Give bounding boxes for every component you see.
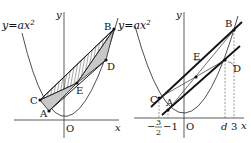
point-B: [112, 27, 115, 30]
label-E: E: [76, 85, 83, 96]
left-figure: y=ax2 y x O B D E C A: [1, 9, 121, 138]
x-axis-label: x: [115, 122, 121, 133]
diagram-canvas: y=ax2 y x O B D E C A y=ax2 y x O: [0, 0, 251, 143]
right-figure: y=ax2 y x O B D E C A − 3 2 −1 d 3: [117, 9, 247, 138]
point-B: [232, 28, 235, 31]
point-D: [223, 58, 226, 61]
origin-label: O: [186, 121, 194, 132]
tick-frac-den: 2: [156, 128, 161, 137]
point-C: [157, 96, 160, 99]
label-B: B: [104, 21, 111, 32]
curve-label: y=ax2: [117, 19, 151, 32]
y-axis-label: y: [55, 9, 62, 20]
tick-neg-one: −1: [163, 121, 178, 132]
label-A: A: [165, 97, 174, 108]
tick-frac-num: 3: [156, 118, 161, 127]
segment-AB: [168, 30, 234, 110]
label-D: D: [107, 61, 115, 72]
label-C: C: [30, 95, 38, 106]
point-C: [38, 98, 41, 101]
label-D: D: [233, 63, 241, 74]
x-axis-label: x: [241, 120, 247, 131]
label-A: A: [39, 108, 48, 119]
origin-label: O: [66, 123, 74, 134]
label-E: E: [193, 51, 200, 62]
line-AD: [162, 46, 240, 115]
line-CB: [151, 22, 242, 107]
segment-CD: [159, 60, 225, 98]
curve-label: y=ax2: [1, 19, 35, 32]
point-A: [47, 109, 50, 112]
tick-three: 3: [231, 121, 237, 132]
y-axis-label: y: [175, 9, 182, 20]
label-C: C: [150, 94, 158, 105]
point-A: [166, 108, 169, 111]
tick-d: d: [221, 121, 227, 132]
label-B: B: [225, 18, 232, 29]
tick-neg-sign: −: [147, 121, 155, 132]
point-E: [194, 75, 197, 78]
